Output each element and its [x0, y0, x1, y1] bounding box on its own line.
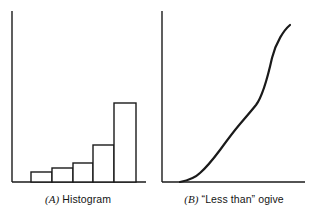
panel-histogram: (A) Histogram [0, 0, 156, 217]
panel-a-letter: (A) [45, 193, 59, 205]
panel-b-letter: (B) [184, 193, 198, 205]
panel-a-caption: (A) Histogram [0, 193, 156, 206]
panel-a-caption-text: Histogram [62, 193, 111, 205]
ogive-plot [156, 0, 313, 193]
figure-root: (A) Histogram (B) “Less than” ogive [0, 0, 313, 217]
histogram-bar-5 [114, 103, 136, 182]
ogive-curve [180, 25, 290, 182]
histogram-bar-2 [52, 168, 73, 182]
histogram-bar-1 [31, 172, 52, 182]
panel-ogive: (B) “Less than” ogive [156, 0, 312, 217]
histogram-bar-4 [93, 145, 114, 182]
panel-b-caption: (B) “Less than” ogive [156, 193, 312, 206]
histogram-bar-3 [73, 163, 93, 182]
histogram-plot [0, 0, 156, 193]
panel-b-caption-text: “Less than” ogive [202, 193, 284, 205]
histogram-bars [31, 103, 136, 182]
